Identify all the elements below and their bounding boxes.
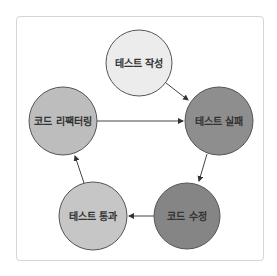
node-label: 테스트 작성 <box>115 57 163 69</box>
node-label: 테스트 실패 <box>195 115 243 127</box>
node-label: 테스트 통과 <box>69 210 118 222</box>
node-label: 코드 수정 <box>167 210 206 222</box>
node-test-pass: 테스트 통과 <box>59 182 127 250</box>
arrow-write-test-to-test-fail <box>166 83 188 100</box>
arrow-test-pass-to-refactor <box>75 156 84 183</box>
node-write-test: 테스트 작성 <box>106 30 172 96</box>
nodes: 테스트 작성테스트 실패코드 수정테스트 통과코드 리팩터링 <box>29 30 253 250</box>
tdd-cycle-diagram: 테스트 작성테스트 실패코드 수정테스트 통과코드 리팩터링 <box>0 0 277 276</box>
node-label: 코드 리팩터링 <box>34 115 91 127</box>
arrow-test-fail-to-fix-code <box>199 154 207 181</box>
node-fix-code: 코드 수정 <box>154 183 220 249</box>
node-test-fail: 테스트 실패 <box>185 87 253 155</box>
node-refactor: 코드 리팩터링 <box>29 87 97 155</box>
